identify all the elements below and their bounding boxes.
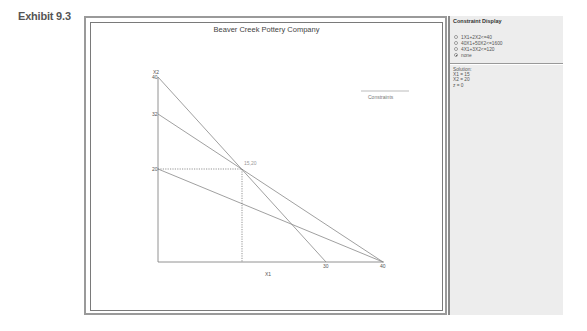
constraint-display-title: Constraint Display <box>450 16 563 26</box>
x-axis-label: X1 <box>265 271 271 277</box>
radio-button-icon[interactable] <box>454 35 458 39</box>
radio-button-icon[interactable] <box>454 47 458 51</box>
radio-label: 1X1+2X2<=40 <box>461 35 492 40</box>
radio-button-selected-icon[interactable] <box>454 53 458 57</box>
exhibit-label: Exhibit 9.3 <box>18 10 71 22</box>
radio-label: 40X1+50X2<=1600 <box>461 41 502 46</box>
graph-window: Beaver Creek Pottery Company X2 40 32 20… <box>84 16 447 315</box>
radio-label: 4X1+3X2<=120 <box>461 47 494 52</box>
constraint-display-panel: Constraint Display 1X1+2X2<=40 40X1+50X2… <box>448 16 563 315</box>
radio-label: none <box>461 53 472 58</box>
radio-button-icon[interactable] <box>454 41 458 45</box>
solution-z: z = 0 <box>453 83 560 88</box>
solution-point-label: 15,20 <box>244 160 257 166</box>
plot-area: Beaver Creek Pottery Company X2 40 32 20… <box>90 22 443 311</box>
legend-label: Constraints <box>368 94 393 100</box>
constraint-line-labor <box>158 169 383 262</box>
solution-box: Solution: X1 = 15 X2 = 20 z = 0 <box>450 65 563 90</box>
y-tick-40: 40 <box>152 74 158 80</box>
constraint-radio-group: 1X1+2X2<=40 40X1+50X2<=1600 4X1+3X2<=120… <box>450 26 563 58</box>
radio-none[interactable]: none <box>454 52 559 58</box>
x-tick-40: 40 <box>380 263 386 269</box>
y-tick-32: 32 <box>152 111 158 117</box>
y-tick-20: 20 <box>152 166 158 172</box>
x-tick-30: 30 <box>323 263 329 269</box>
constraint-line-1600 <box>158 114 383 262</box>
